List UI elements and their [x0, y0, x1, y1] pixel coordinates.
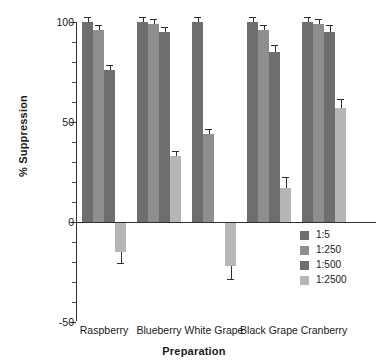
bar [170, 156, 181, 222]
bar [192, 22, 203, 222]
category-label: Cranberry [284, 324, 364, 336]
error-bar-cap [282, 177, 289, 178]
legend-label: 1:2500 [316, 275, 347, 285]
y-axis-title: % Suppression [17, 66, 29, 206]
y-tick-minor [72, 302, 76, 303]
y-tick-minor [72, 62, 76, 63]
error-bar-cap [106, 65, 113, 66]
x-axis-title: Preparation [0, 345, 388, 357]
bar [203, 134, 214, 222]
error-bar-cap [260, 25, 267, 26]
error-bar-cap [194, 17, 201, 18]
zero-baseline [76, 222, 376, 223]
bar [324, 32, 335, 222]
bar [115, 222, 126, 252]
error-bar-cap [271, 45, 278, 46]
y-tick-minor [72, 242, 76, 243]
bar [82, 22, 93, 222]
y-tick-minor [72, 142, 76, 143]
bar [335, 108, 346, 222]
chart-figure: % Suppression Preparation -50050100 Rasp… [0, 0, 388, 363]
bar [148, 24, 159, 222]
error-bar-cap [205, 129, 212, 130]
error-bar-cap [150, 19, 157, 20]
y-tick-label: 50 [34, 117, 74, 128]
error-bar-cap [227, 279, 234, 280]
error-bar-cap [161, 27, 168, 28]
bar [280, 188, 291, 222]
error-bar-cap [337, 99, 344, 100]
bar [302, 22, 313, 222]
bar [247, 22, 258, 222]
bar [258, 30, 269, 222]
y-tick-minor [72, 262, 76, 263]
bar [159, 32, 170, 222]
legend-label: 1:5 [316, 230, 330, 240]
bar [137, 22, 148, 222]
y-tick-minor [72, 182, 76, 183]
y-tick-minor [72, 202, 76, 203]
error-bar-cap [95, 25, 102, 26]
y-tick-minor [72, 162, 76, 163]
legend-label: 1:500 [316, 260, 341, 270]
error-bar-cap [84, 17, 91, 18]
bar [93, 30, 104, 222]
error-bar [330, 25, 331, 32]
y-tick-minor [72, 42, 76, 43]
error-bar-cap [139, 17, 146, 18]
legend-label: 1:250 [316, 245, 341, 255]
y-axis-spine [76, 22, 77, 321]
legend-swatch [300, 276, 309, 285]
legend-item: 1:2500 [300, 273, 384, 287]
error-bar [275, 45, 276, 52]
y-tick-minor [72, 102, 76, 103]
error-bar [286, 177, 287, 188]
error-bar [341, 99, 342, 108]
error-bar [121, 252, 122, 263]
legend-swatch [300, 246, 309, 255]
bar [313, 24, 324, 222]
error-bar-cap [117, 263, 124, 264]
y-tick-minor [72, 82, 76, 83]
legend-item: 1:250 [300, 243, 384, 257]
legend-item: 1:5 [300, 228, 384, 242]
y-tick-label: 0 [34, 217, 74, 228]
bar [225, 222, 236, 266]
error-bar-cap [172, 151, 179, 152]
error-bar-cap [304, 17, 311, 18]
bar [104, 70, 115, 222]
error-bar-cap [315, 19, 322, 20]
error-bar [231, 266, 232, 279]
error-bar-cap [326, 25, 333, 26]
bar [269, 52, 280, 222]
legend-swatch [300, 261, 309, 270]
chart-legend: 1:51:2501:5001:2500 [300, 228, 384, 288]
legend-swatch [300, 231, 309, 240]
error-bar-cap [249, 17, 256, 18]
legend-item: 1:500 [300, 258, 384, 272]
y-tick-minor [72, 282, 76, 283]
y-tick-label: 100 [34, 17, 74, 28]
